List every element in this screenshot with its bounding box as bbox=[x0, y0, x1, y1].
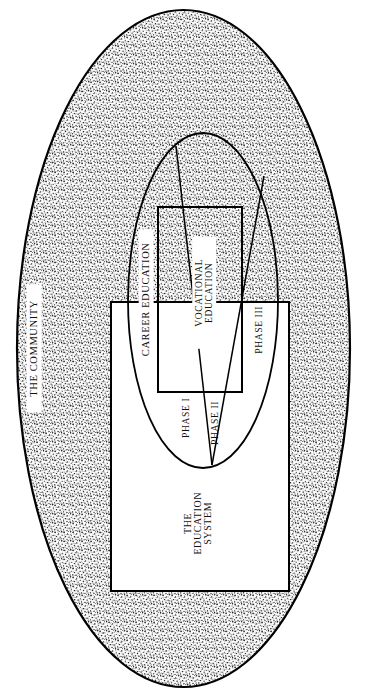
region-the-education-system bbox=[111, 302, 289, 591]
diagram-canvas: THE COMMUNITY CAREER EDUCATION VOCATIONA… bbox=[0, 0, 368, 696]
career-education-diagram bbox=[0, 0, 368, 696]
